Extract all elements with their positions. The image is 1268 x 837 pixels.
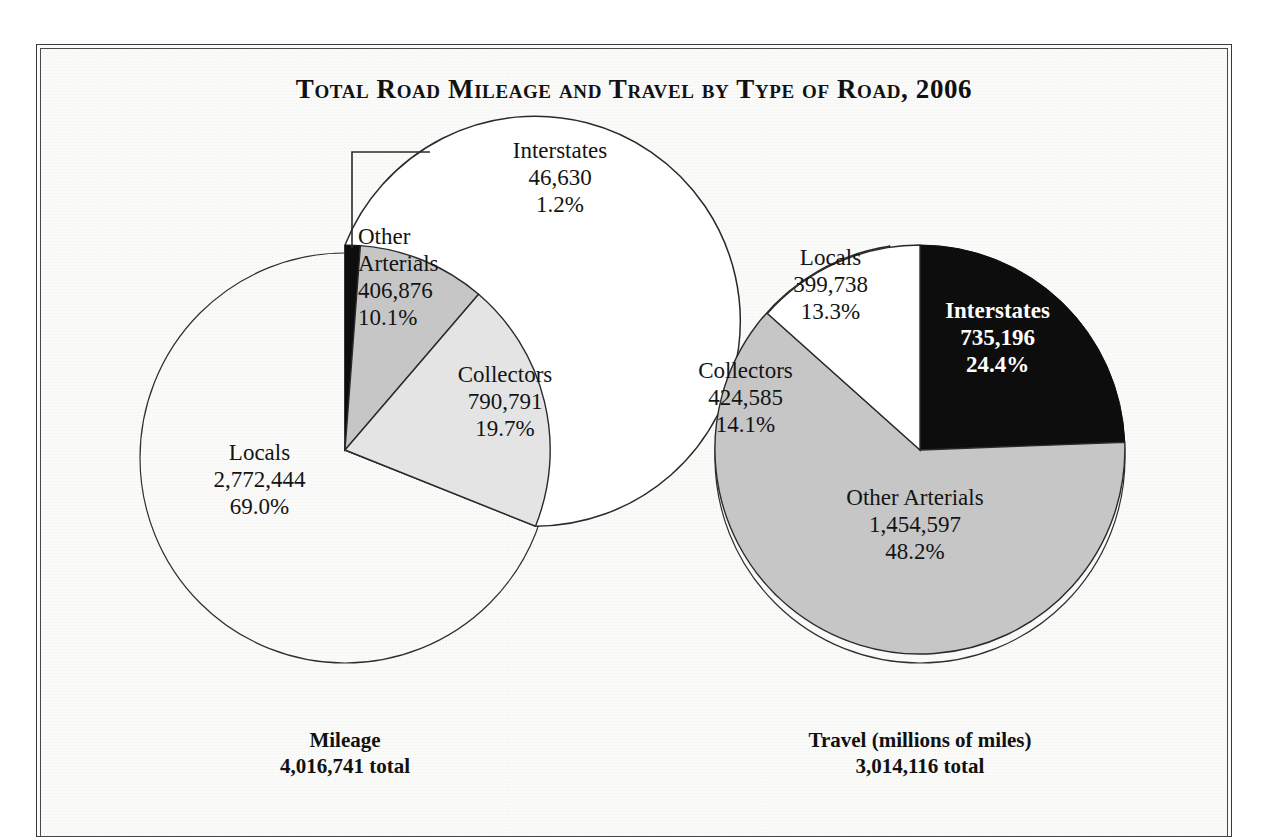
mileage-label-interstates-name: Interstates (430, 138, 690, 165)
travel-label-other-arterials: Other Arterials 1,454,597 48.2% (765, 485, 1065, 566)
mileage-label-locals: Locals 2,772,444 69.0% (172, 440, 347, 521)
mileage-label-locals-percent: 69.0% (172, 494, 347, 521)
mileage-label-locals-value: 2,772,444 (172, 467, 347, 494)
travel-caption: Travel (millions of miles) 3,014,116 tot… (745, 727, 1095, 780)
travel-label-interstates-name: Interstates (905, 298, 1090, 325)
mileage-label-collectors-name: Collectors (400, 362, 610, 389)
travel-label-locals: Locals 399,738 13.3% (743, 245, 918, 326)
mileage-pie-chart (0, 0, 1268, 837)
mileage-label-interstates-value: 46,630 (430, 165, 690, 192)
travel-label-collectors: Collectors 424,585 14.1% (643, 358, 848, 439)
travel-label-locals-name: Locals (743, 245, 918, 272)
mileage-caption: Mileage 4,016,741 total (215, 727, 475, 780)
travel-caption-line1: Travel (millions of miles) (745, 727, 1095, 753)
mileage-label-collectors: Collectors 790,791 19.7% (400, 362, 610, 443)
travel-label-collectors-percent: 14.1% (643, 412, 848, 439)
travel-label-collectors-name: Collectors (643, 358, 848, 385)
travel-label-interstates: Interstates 735,196 24.4% (905, 298, 1090, 379)
travel-label-interstates-value: 735,196 (905, 325, 1090, 352)
mileage-caption-line1: Mileage (215, 727, 475, 753)
mileage-label-interstates: Interstates 46,630 1.2% (430, 138, 690, 219)
travel-caption-line2: 3,014,116 total (745, 753, 1095, 779)
mileage-caption-line2: 4,016,741 total (215, 753, 475, 779)
mileage-label-other-arterials-name2: Arterials (358, 251, 438, 278)
mileage-label-other-arterials: Other Arterials 406,876 10.1% (358, 224, 438, 332)
mileage-label-locals-name: Locals (172, 440, 347, 467)
travel-label-locals-value: 399,738 (743, 272, 918, 299)
mileage-label-interstates-percent: 1.2% (430, 192, 690, 219)
travel-label-interstates-percent: 24.4% (905, 352, 1090, 379)
mileage-label-other-arterials-value: 406,876 (358, 278, 438, 305)
mileage-label-collectors-percent: 19.7% (400, 416, 610, 443)
travel-label-other-arterials-name: Other Arterials (765, 485, 1065, 512)
travel-label-collectors-value: 424,585 (643, 385, 848, 412)
travel-label-other-arterials-value: 1,454,597 (765, 512, 1065, 539)
chart-page: Total Road Mileage and Travel by Type of… (0, 0, 1268, 837)
mileage-label-other-arterials-name: Other (358, 224, 438, 251)
travel-label-locals-percent: 13.3% (743, 299, 918, 326)
mileage-label-collectors-value: 790,791 (400, 389, 610, 416)
travel-label-other-arterials-percent: 48.2% (765, 539, 1065, 566)
mileage-label-other-arterials-percent: 10.1% (358, 305, 438, 332)
